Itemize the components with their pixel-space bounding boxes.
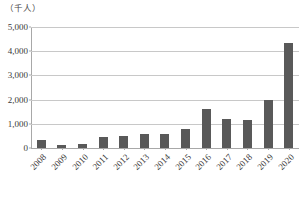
bar-slot [278,27,299,148]
x-tick-label-2013: 2013 [132,152,152,172]
x-label-slot: 2009 [52,150,73,196]
y-axis-unit-label: （千人） [5,3,41,14]
x-label-slot: 2016 [196,150,217,196]
x-label-slot: 2017 [216,150,237,196]
plot-area: 5,0004,0003,0002,0001,0000 [31,27,299,148]
x-tick-mark [62,148,63,150]
bar-slot [31,27,52,148]
x-tick-label-2017: 2017 [214,152,234,172]
x-label-slot: 2013 [134,150,155,196]
bar-slot [175,27,196,148]
x-tick-label-2019: 2019 [255,152,275,172]
bar-2018 [243,120,252,148]
bar-series [31,27,299,148]
x-label-slot: 2010 [72,150,93,196]
x-tick-mark [186,148,187,150]
x-tick-label-2018: 2018 [235,152,255,172]
bar-2013 [140,134,149,148]
x-tick-mark [103,148,104,150]
x-tick-mark [144,148,145,150]
x-tick-mark [165,148,166,150]
bar-slot [93,27,114,148]
x-tick-mark [289,148,290,150]
x-axis-ticks: 2008200920102011201220132014201520162017… [31,150,299,196]
bar-slot [134,27,155,148]
y-tick-label: 1,000 [8,119,28,128]
x-tick-mark [206,148,207,150]
bar-2012 [119,136,128,148]
bar-slot [72,27,93,148]
x-tick-mark [41,148,42,150]
x-tick-label-2010: 2010 [70,152,90,172]
x-label-slot: 2018 [237,150,258,196]
y-tick-label: 2,000 [8,95,28,104]
x-label-slot: 2020 [278,150,299,196]
x-tick-label-2009: 2009 [49,152,69,172]
x-label-slot: 2015 [175,150,196,196]
bar-slot [155,27,176,148]
x-tick-label-2015: 2015 [173,152,193,172]
y-tick-label: 0 [24,144,29,153]
x-tick-label-2014: 2014 [152,152,172,172]
bar-2016 [202,109,211,148]
x-tick-mark [124,148,125,150]
bar-slot [216,27,237,148]
bar-2017 [222,119,231,148]
bar-slot [52,27,73,148]
y-tick-label: 3,000 [8,71,28,80]
bar-2015 [181,129,190,148]
bar-2008 [37,140,46,148]
x-tick-mark [247,148,248,150]
bar-2014 [160,134,169,148]
x-tick-mark [83,148,84,150]
y-tick-label: 5,000 [8,23,28,32]
bar-slot [258,27,279,148]
y-tick-label: 4,000 [8,47,28,56]
bar-2019 [264,100,273,148]
x-tick-label-2020: 2020 [276,152,296,172]
x-tick-label-2011: 2011 [91,152,111,172]
bar-chart: （千人） 5,0004,0003,0002,0001,0000 20082009… [0,0,306,198]
bar-2020 [284,43,293,148]
x-label-slot: 2008 [31,150,52,196]
x-label-slot: 2019 [258,150,279,196]
x-tick-label-2016: 2016 [193,152,213,172]
x-tick-label-2012: 2012 [111,152,131,172]
x-label-slot: 2011 [93,150,114,196]
x-label-slot: 2012 [113,150,134,196]
bar-slot [113,27,134,148]
bar-slot [196,27,217,148]
x-tick-mark [268,148,269,150]
x-tick-label-2008: 2008 [29,152,49,172]
x-label-slot: 2014 [155,150,176,196]
x-tick-mark [227,148,228,150]
bar-slot [237,27,258,148]
bar-2011 [99,137,108,148]
